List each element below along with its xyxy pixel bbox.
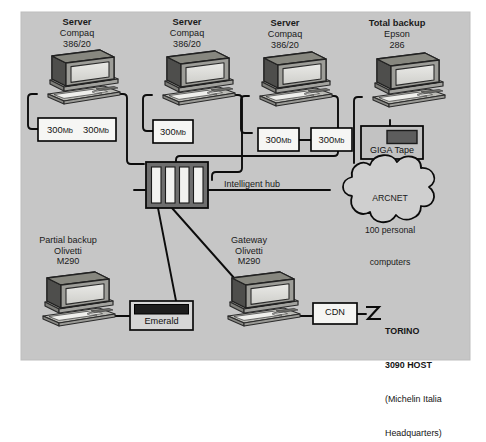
partial-backup-model: M290 (16, 256, 120, 267)
cloud-line-2: 100 personal (348, 225, 432, 236)
server-3-role: Server (248, 18, 322, 29)
computer-server-1 (48, 50, 120, 104)
disk-c1-unit: Mb (281, 136, 291, 145)
label-server-1: Server Compaq 386/20 (40, 17, 114, 49)
computer-server-3 (260, 52, 332, 106)
label-server-2: Server Compaq 386/20 (150, 17, 224, 49)
host-line-2: 3090 HOST (385, 360, 481, 371)
partial-backup-vendor: Olivetti (16, 246, 120, 257)
gateway-model: M290 (209, 256, 289, 267)
emerald-label: Emerald (130, 316, 193, 326)
disk-b1-label: 300Mb (154, 126, 192, 137)
server-1-vendor: Compaq (40, 28, 114, 39)
hub-label: Intelligent hub (224, 179, 280, 189)
disk-a2-label: 300Mb (77, 124, 115, 135)
cloud-line-1: ARCNET (348, 193, 432, 204)
total-backup-model: 286 (352, 40, 442, 51)
host-line-4: Headquarters) (385, 428, 481, 439)
cloud-line-3: computers (348, 257, 432, 268)
disk-c1-label: 300Mb (259, 134, 298, 145)
label-total-backup: Total backup Epson 286 (352, 18, 442, 50)
disk-c2-size: 300 (319, 134, 335, 145)
disk-b1-unit: Mb (176, 128, 186, 137)
tape-label: GIGA Tape (361, 145, 423, 155)
disk-a1-size: 300 (47, 124, 63, 135)
server-2-role: Server (150, 17, 224, 28)
host-line-1: TORINO (385, 326, 481, 337)
disk-a2-unit: Mb (99, 126, 109, 135)
server-2-vendor: Compaq (150, 28, 224, 39)
host-line-3: (Michelin Italia (385, 394, 481, 405)
disk-b1-size: 300 (160, 126, 176, 137)
server-2-model: 386/20 (150, 39, 224, 50)
hub-chassis (146, 162, 208, 208)
computer-server-2 (163, 51, 235, 105)
disk-a2-size: 300 (83, 124, 99, 135)
server-1-model: 386/20 (40, 39, 114, 50)
cloud-label: ARCNET 100 personal computers (348, 172, 432, 289)
disk-c2-label: 300Mb (312, 134, 351, 145)
computer-total-backup (373, 53, 445, 107)
disk-c2-unit: Mb (334, 136, 344, 145)
label-server-3: Server Compaq 386/20 (248, 18, 322, 50)
cdn-label: CDN (313, 307, 357, 317)
server-3-model: 386/20 (248, 40, 322, 51)
computer-gateway (228, 272, 300, 326)
total-backup-role: Total backup (352, 18, 442, 29)
disk-c1-size: 300 (266, 134, 282, 145)
gateway-role: Gateway (209, 235, 289, 246)
computer-partial-backup (43, 272, 115, 326)
server-3-vendor: Compaq (248, 29, 322, 40)
label-gateway: Gateway Olivetti M290 (209, 235, 289, 267)
disk-a1-label: 300Mb (41, 124, 79, 135)
label-partial-backup: Partial backup Olivetti M290 (16, 235, 120, 267)
host-label: TORINO 3090 HOST (Michelin Italia Headqu… (385, 303, 481, 442)
gateway-vendor: Olivetti (209, 246, 289, 257)
partial-backup-role: Partial backup (16, 235, 120, 246)
server-1-role: Server (40, 17, 114, 28)
disk-a1-unit: Mb (63, 126, 73, 135)
total-backup-vendor: Epson (352, 29, 442, 40)
